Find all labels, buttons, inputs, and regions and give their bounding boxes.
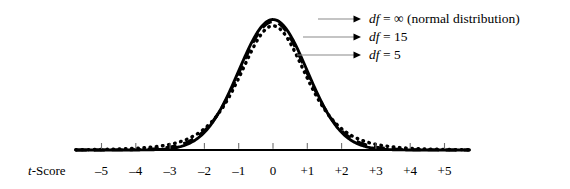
legend-value: 15 [394, 29, 408, 44]
x-axis-tick-label: +5 [438, 164, 452, 177]
curve-df-infinity [76, 20, 470, 150]
x-axis-tick-label: +4 [403, 164, 417, 177]
leader-arrowhead-icon [354, 33, 362, 40]
curve-df-5 [76, 26, 470, 150]
legend-value: 5 [394, 47, 401, 62]
legend-df-symbol: df [369, 47, 380, 62]
legend-leader-lines [297, 15, 361, 58]
x-axis-tick-label: 0 [270, 164, 277, 177]
legend-equals: = [380, 29, 394, 44]
curve-df-15 [76, 22, 470, 150]
x-axis-tick-label: –5 [95, 164, 108, 177]
x-axis-tick-label: –3 [164, 164, 177, 177]
x-axis-tick-label: +3 [369, 164, 383, 177]
distribution-curves [76, 20, 470, 150]
legend-item-df-infinity: df = ∞ (normal distribution) [369, 12, 520, 26]
x-axis [76, 143, 470, 150]
legend-item-df-5: df = 5 [369, 48, 401, 62]
x-axis-tick-label: –4 [129, 164, 142, 177]
legend-df-symbol: df [369, 29, 380, 44]
x-axis-tick-label: +1 [300, 164, 314, 177]
x-axis-tick-label: –1 [232, 164, 245, 177]
legend-df-symbol: df [369, 11, 380, 26]
legend-equals: = [380, 47, 394, 62]
legend-value: ∞ (normal distribution) [394, 11, 520, 26]
leader-arrowhead-icon [354, 51, 362, 58]
legend-item-df-15: df = 15 [369, 30, 407, 44]
legend-equals: = [380, 11, 394, 26]
chart-plot-area [0, 0, 570, 189]
t-distribution-chart: t-Score –5–4–3–2–10+1+2+3+4+5 df = ∞ (no… [0, 0, 570, 189]
x-axis-tick-label: –2 [198, 164, 211, 177]
leader-arrowhead-icon [354, 15, 362, 22]
x-axis-title: t-Score [28, 164, 66, 177]
x-axis-tick-label: +2 [335, 164, 349, 177]
x-axis-title-suffix: -Score [32, 163, 66, 178]
